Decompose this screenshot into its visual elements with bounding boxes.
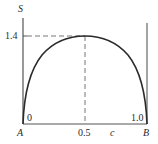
x-tick-label: 0.5 <box>78 128 91 138</box>
entropy-chart: S 1.4 0 1.0 A 0.5 c B <box>0 0 158 144</box>
right-end-value: 1.0 <box>131 113 144 123</box>
y-tick-label: 1.4 <box>5 31 18 41</box>
right-end-name: B <box>143 128 149 138</box>
y-axis-label: S <box>18 4 23 14</box>
left-end-name: A <box>17 128 23 138</box>
x-axis-label: c <box>110 128 114 138</box>
left-end-value: 0 <box>27 113 32 123</box>
